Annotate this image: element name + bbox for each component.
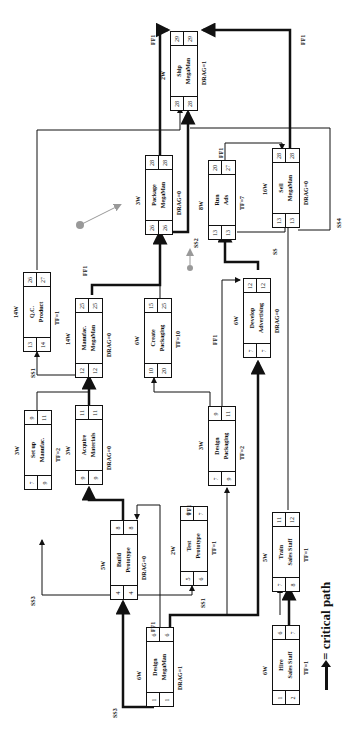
early-finish: 26 (27, 277, 33, 283)
node-design-megaman: 6 6 DesignMegaMan 1 1 (146, 627, 174, 707)
early-start: 4 (114, 591, 120, 594)
duration-label: 6W (233, 316, 239, 325)
duration-label: 6W (134, 336, 140, 345)
node-note: DRAG=0 (141, 556, 147, 580)
link-label: FF1 (300, 35, 306, 45)
node-name: Manufac. (80, 325, 89, 351)
node-ship-megaman: 29 29 ShipMegaMan 28 28 (170, 31, 198, 111)
late-start: 4 (127, 591, 133, 594)
late-finish: 25 (161, 303, 167, 309)
early-finish: 15 (148, 303, 154, 309)
duration-label: 3W (14, 446, 20, 455)
late-finish: 11 (41, 415, 47, 421)
early-finish: 28 (276, 153, 282, 159)
node-name: Sales Staff (286, 539, 295, 566)
link-label: SS4 (336, 218, 342, 228)
early-finish: 9 (28, 416, 34, 419)
node-note: DRAG=0 (176, 191, 182, 215)
node-name: Package (150, 182, 159, 208)
node-note: DRAG=0 (303, 181, 309, 205)
node-note: DRAG=1 (177, 666, 183, 690)
late-start: 9 (41, 481, 47, 484)
early-start: 7 (247, 349, 253, 352)
early-start: 10 (148, 368, 154, 374)
node-name: Packaging (222, 433, 231, 460)
early-start: 12 (79, 368, 85, 374)
node-name: MegaMan (89, 325, 98, 351)
node-name: Advertising (257, 303, 266, 333)
link-label: SS3 (112, 708, 118, 718)
late-finish: 28 (162, 160, 168, 166)
early-finish: 29 (174, 36, 180, 42)
node-note: TF=2 (239, 446, 245, 460)
node-create-packaging: 15 25 CreatePackaging 10 20 (144, 298, 172, 378)
thick-arrow-icon (325, 666, 328, 690)
node-note: DRAG=0 (106, 446, 112, 470)
node-sell-megaman: 28 28 SellMegaMan 13 13 (272, 148, 300, 228)
link-label: SS1 (200, 598, 206, 608)
early-start: 1 (150, 698, 156, 701)
late-finish: 29 (187, 36, 193, 42)
gray-arrow-marker (80, 205, 120, 225)
duration-label: 3W (198, 441, 204, 450)
link-label: SS1 (30, 368, 36, 378)
early-start: 28 (174, 101, 180, 107)
legend-label: = critical path (318, 582, 334, 660)
node-name: MegaMan (159, 182, 168, 208)
node-note: TF=1 (54, 311, 60, 325)
late-start: 7 (260, 349, 266, 352)
node-qc-product: 26 27 Q.C.Product 13 14 (23, 272, 51, 352)
late-finish: 25 (92, 303, 98, 309)
duration-label: 2W (170, 546, 176, 555)
early-finish: 8 (114, 526, 120, 529)
late-finish: 11 (225, 411, 231, 417)
late-finish: 27 (225, 165, 231, 171)
node-manufac-megaman: 25 25 Manufac.MegaMan 12 12 (75, 298, 103, 378)
node-design-packaging: 9 11 DesignPackaging 7 9 (208, 406, 236, 486)
duration-label: 6W (262, 666, 268, 675)
late-finish: 8 (127, 526, 133, 529)
late-start: 6 (197, 577, 203, 580)
duration-label: 5W (100, 561, 106, 570)
node-develop-advertising: 12 12 DevelopAdvertising 7 7 (243, 278, 271, 358)
late-start: 12 (92, 368, 98, 374)
late-start: 13 (289, 218, 295, 224)
early-finish: 11 (276, 517, 282, 523)
node-name: Acquire (80, 433, 89, 458)
node-name: Create (149, 325, 158, 352)
early-start: 5 (184, 577, 190, 580)
link-label: FF1 (82, 266, 88, 276)
late-finish: 27 (40, 277, 46, 283)
late-start: 28 (187, 101, 193, 107)
node-name: Q.C. (28, 302, 37, 323)
node-name: Train (277, 539, 286, 566)
early-finish: 9 (212, 412, 218, 415)
node-note: TF=1 (303, 548, 309, 562)
node-note: DRAG=0 (106, 333, 112, 357)
early-finish: 12 (247, 283, 253, 289)
node-name: Design (151, 654, 160, 680)
node-acquire-materials: 11 11 AcquireMaterials 9 9 (75, 405, 103, 485)
node-note: TF=10 (175, 331, 181, 348)
node-note: TF=1 (211, 541, 217, 555)
late-finish: 11 (92, 410, 98, 416)
duration-label: 14W (65, 333, 71, 345)
node-train-sales-staff: 11 12 TrainSales Staff 7 8 (272, 512, 300, 592)
node-note: TF=1 (303, 661, 309, 675)
node-name: Materials (89, 433, 98, 458)
link-label: SS2 (193, 238, 199, 248)
node-name: Ship (175, 58, 184, 84)
early-start: 13 (212, 230, 218, 236)
node-name: MegaMan (286, 175, 295, 201)
duration-label: 2W (160, 71, 166, 80)
node-name: Sell (277, 175, 286, 201)
node-note: DRAG=0 (274, 309, 280, 333)
duration-label: 5W (262, 553, 268, 562)
late-start: 9 (225, 477, 231, 480)
node-name: Ads (222, 194, 231, 205)
node-name: Packaging (158, 325, 167, 352)
early-finish: 28 (149, 160, 155, 166)
late-start: 14 (40, 342, 46, 348)
link-label: FF1 (150, 35, 156, 45)
late-start: 8 (289, 583, 295, 586)
